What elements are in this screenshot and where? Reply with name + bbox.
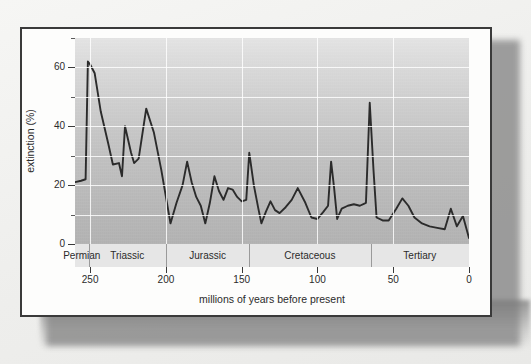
x-axis-tick-label: 50 <box>388 275 399 285</box>
x-axis-tick-label: 150 <box>233 275 250 285</box>
plot-area <box>75 38 469 244</box>
extinction-line-chart: extinction (%) 0204060 PermianTriassicJu… <box>22 29 490 315</box>
period-band-tertiary: Tertiary <box>371 244 470 267</box>
period-band-jurassic: Jurassic <box>166 244 249 267</box>
gridline-vertical <box>242 38 243 244</box>
x-axis-tick <box>166 267 167 273</box>
x-axis-tick <box>242 267 243 273</box>
data-series-svg <box>75 38 469 244</box>
x-axis-tick-label: 250 <box>82 275 99 285</box>
extinction-rate-line <box>75 62 469 239</box>
x-axis-tick <box>317 267 318 273</box>
y-axis-tick-label: 0 <box>59 239 65 249</box>
gridline-horizontal <box>75 185 469 186</box>
y-axis-tick-label: 20 <box>54 180 65 190</box>
period-band-permian: Permian <box>75 244 89 267</box>
y-axis-tick-label: 40 <box>54 121 65 131</box>
y-axis-tick <box>68 126 75 127</box>
gridline-horizontal <box>75 97 469 98</box>
period-band-divider <box>166 244 167 267</box>
gridline-horizontal <box>75 215 469 216</box>
y-axis-tick <box>68 67 75 68</box>
x-axis-tick-label: 100 <box>309 275 326 285</box>
y-axis-tick <box>68 185 75 186</box>
period-band-divider <box>89 244 90 267</box>
x-axis-title: millions of years before present <box>75 293 469 305</box>
gridline-vertical <box>90 38 91 244</box>
figure-card: extinction (%) 0204060 PermianTriassicJu… <box>20 27 492 317</box>
x-axis-tick <box>393 267 394 273</box>
geological-period-strip: PermianTriassicJurassicCretaceousTertiar… <box>75 244 469 267</box>
period-band-divider <box>371 244 372 267</box>
gridline-vertical <box>317 38 318 244</box>
x-axis-tick <box>469 267 470 273</box>
y-axis: extinction (%) 0204060 <box>22 38 75 244</box>
y-axis-tick-label: 60 <box>54 62 65 72</box>
y-axis-title: extinction (%) <box>24 81 36 201</box>
gridline-vertical <box>393 38 394 244</box>
y-axis-tick <box>68 244 75 245</box>
x-axis-tick-label: 0 <box>466 275 472 285</box>
period-band-triassic: Triassic <box>89 244 166 267</box>
period-band-divider <box>249 244 250 267</box>
gridline-horizontal <box>75 156 469 157</box>
period-band-cretaceous: Cretaceous <box>249 244 370 267</box>
x-axis-tick-label: 200 <box>158 275 175 285</box>
gridline-vertical <box>166 38 167 244</box>
gridline-horizontal <box>75 126 469 127</box>
x-axis-tick <box>90 267 91 273</box>
x-axis: 250200150100500 <box>75 267 469 293</box>
gridline-horizontal <box>75 67 469 68</box>
